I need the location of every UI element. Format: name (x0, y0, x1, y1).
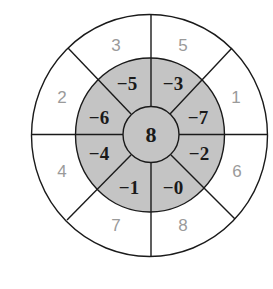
outer-value-top-right: 5 (178, 36, 187, 55)
outer-value-upper-left: 2 (57, 88, 66, 107)
inner-value-lower-right: −2 (189, 143, 209, 164)
outer-value-lower-left: 4 (57, 162, 66, 181)
inner-value-upper-left: −6 (89, 107, 109, 128)
outer-value-bottom-right: 8 (178, 216, 187, 235)
inner-value-top-left: −5 (117, 73, 137, 94)
outer-value-top-left: 3 (111, 36, 120, 55)
inner-value-bottom-right: −0 (163, 177, 183, 198)
number-wheel-diagram: 8 −5 −3 −7 −2 −0 −1 −4 −6 3 5 1 6 8 7 4 … (0, 0, 273, 289)
center-value: 8 (146, 122, 157, 147)
inner-value-lower-left: −4 (89, 143, 110, 164)
outer-value-bottom-left: 7 (111, 216, 120, 235)
inner-value-top-right: −3 (163, 73, 183, 94)
outer-value-upper-right: 1 (231, 88, 240, 107)
inner-value-upper-right: −7 (188, 107, 209, 128)
outer-value-lower-right: 6 (232, 162, 241, 181)
inner-value-bottom-left: −1 (119, 177, 139, 198)
